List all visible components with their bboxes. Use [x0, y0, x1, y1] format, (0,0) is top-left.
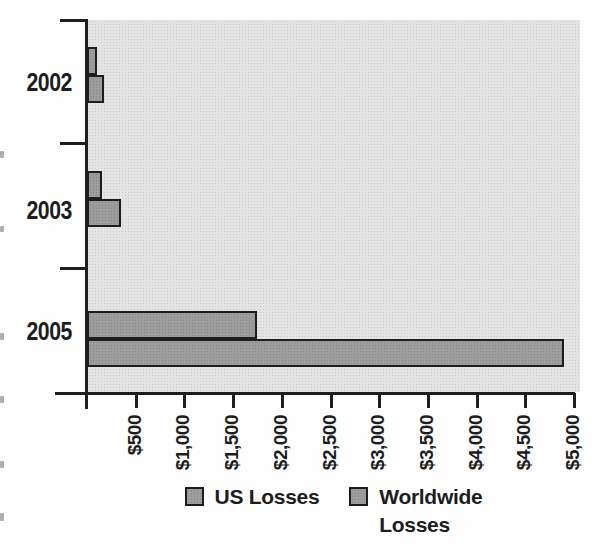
legend-label-worldwide-losses: Worldwide Losses [379, 483, 482, 539]
tick-mark [281, 393, 284, 408]
worldwide-losses-swatch-icon [349, 487, 368, 506]
x-tick-label: $5,000 [562, 415, 584, 470]
scan-artifact [0, 333, 4, 340]
legend-label-line2: Losses [379, 511, 482, 539]
x-tick-label: $1,000 [172, 415, 194, 470]
y-axis-tick [60, 142, 88, 145]
tick-mark [378, 393, 381, 408]
tick-mark [135, 393, 138, 408]
legend-label-line1: Worldwide [379, 483, 482, 511]
tick-mark [183, 393, 186, 408]
scan-artifact [0, 513, 4, 521]
scan-artifact [0, 151, 4, 158]
bar-2005-us-losses [87, 311, 257, 339]
bar-2003-worldwide-losses [87, 199, 121, 227]
scan-artifact [0, 396, 4, 403]
tick-mark [427, 393, 430, 408]
bar-2005-worldwide-losses [87, 339, 564, 367]
legend: US Losses Worldwide Losses [87, 483, 580, 539]
tick-mark [476, 393, 479, 408]
legend-item-worldwide-losses: Worldwide Losses [349, 483, 482, 539]
x-tick-label: $500 [124, 415, 146, 455]
legend-item-us-losses: US Losses [185, 483, 320, 511]
x-tick-label: $3,500 [416, 415, 438, 470]
bar-2002-worldwide-losses [87, 75, 104, 103]
tick-mark [232, 393, 235, 408]
x-tick-label: $4,000 [465, 415, 487, 470]
tick-mark [573, 393, 576, 408]
y-axis-tick [60, 267, 88, 270]
x-axis-line [55, 392, 575, 395]
category-label-2003: 2003 [18, 197, 72, 223]
us-losses-swatch-icon [185, 487, 204, 506]
bar-2003-us-losses [87, 171, 102, 199]
tick-mark [524, 393, 527, 408]
x-tick-label: $2,500 [319, 415, 341, 470]
legend-label-us-losses: US Losses [215, 483, 320, 511]
x-tick-label: $1,500 [221, 415, 243, 470]
scan-artifact [0, 226, 4, 232]
bar-chart-figure: 2002 2003 2005 $500 $1,000 $1,500 $2,000… [0, 0, 605, 549]
category-label-2002: 2002 [18, 69, 72, 95]
bar-2002-us-losses [87, 47, 97, 75]
tick-mark [330, 393, 333, 408]
scan-artifact [0, 461, 4, 468]
x-tick-label: $3,000 [367, 415, 389, 470]
category-label-2005: 2005 [18, 318, 72, 344]
x-tick-label: $4,500 [513, 415, 535, 470]
y-axis-tick [60, 19, 88, 22]
x-tick-label: $2,000 [270, 415, 292, 470]
